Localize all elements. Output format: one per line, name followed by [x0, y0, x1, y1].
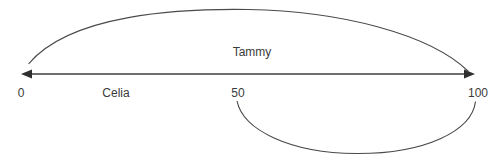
tammy-arc: [29, 9, 469, 71]
tick-label-0: 0: [18, 86, 25, 100]
span-label-tammy: Tammy: [233, 45, 272, 59]
number-line-diagram: 0 50 100 Tammy Celia: [0, 0, 503, 165]
tick-label-100: 100: [468, 86, 488, 100]
arrow-left-icon: [21, 70, 32, 79]
celia-arc: [237, 101, 476, 154]
tick-label-50: 50: [231, 86, 245, 100]
arrow-right-icon: [464, 70, 475, 79]
span-label-celia: Celia: [102, 86, 130, 100]
diagram-canvas: 0 50 100 Tammy Celia: [0, 0, 503, 165]
